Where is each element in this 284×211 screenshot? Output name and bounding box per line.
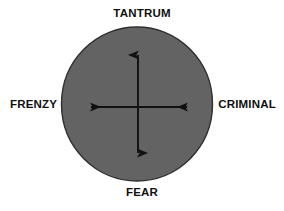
diagram-circle: [62, 27, 213, 181]
axis-label-left: FRENZY: [10, 99, 57, 111]
axis-label-bottom: FEAR: [0, 187, 284, 199]
diagram-canvas: TANTRUM FRENZY CRIMINAL FEAR: [0, 0, 284, 211]
axis-label-right: CRIMINAL: [218, 99, 276, 111]
axis-label-top: TANTRUM: [0, 8, 284, 20]
